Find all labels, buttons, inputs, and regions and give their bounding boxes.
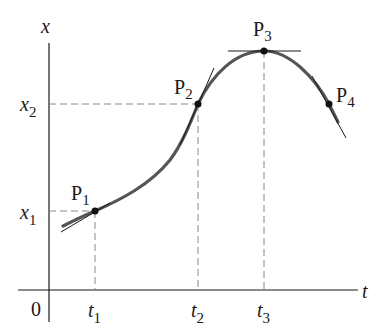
point-p2 bbox=[195, 101, 202, 108]
y-tick-x1-sub: 1 bbox=[29, 212, 37, 228]
point-p1 bbox=[92, 208, 99, 215]
label-p4: P4 bbox=[336, 84, 355, 110]
origin-label: 0 bbox=[31, 298, 41, 320]
label-p2-sub: 2 bbox=[185, 86, 193, 102]
x-tick-t1-sub: 1 bbox=[94, 310, 102, 326]
label-p2-main: P bbox=[174, 76, 185, 98]
horizontal-axis-label: t bbox=[362, 280, 368, 302]
x-tick-t2-sub: 2 bbox=[197, 310, 205, 326]
y-tick-x2-sub: 2 bbox=[29, 104, 37, 120]
label-p3-sub: 3 bbox=[264, 28, 272, 44]
position-curve bbox=[63, 51, 338, 226]
y-tick-x1: x1 bbox=[19, 201, 36, 228]
x-tick-t3-sub: 3 bbox=[263, 310, 271, 326]
position-time-diagram: x t 0 x1 x2 t1 t2 t3 P1 P2 P3 P4 bbox=[0, 0, 378, 333]
label-p4-sub: 4 bbox=[347, 94, 355, 110]
label-p1: P1 bbox=[71, 182, 90, 208]
label-p1-sub: 1 bbox=[82, 192, 90, 208]
label-p2: P2 bbox=[174, 76, 193, 102]
point-p4 bbox=[326, 101, 333, 108]
y-tick-x1-main: x bbox=[19, 201, 29, 223]
x-tick-t3: t3 bbox=[257, 299, 270, 326]
label-p4-main: P bbox=[336, 84, 347, 106]
x-tick-t2: t2 bbox=[191, 299, 204, 326]
y-tick-x2: x2 bbox=[19, 93, 36, 120]
guide-lines bbox=[49, 51, 264, 290]
label-p3-main: P bbox=[253, 18, 264, 40]
point-p3 bbox=[261, 48, 268, 55]
label-p1-main: P bbox=[71, 182, 82, 204]
vertical-axis-label: x bbox=[40, 15, 50, 37]
label-p3: P3 bbox=[253, 18, 272, 44]
x-tick-t1: t1 bbox=[88, 299, 101, 326]
y-tick-x2-main: x bbox=[19, 93, 29, 115]
tangent-lines bbox=[61, 51, 346, 232]
